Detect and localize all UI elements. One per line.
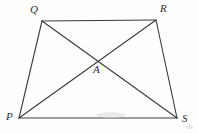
vertex-label-A: A [93,64,100,75]
vertex-label-S: S [182,113,188,124]
vertex-label-Q: Q [30,4,38,15]
geometry-figure: P Q R S A [0,0,198,133]
vertex-label-R: R [160,3,167,14]
paper-smudge [96,112,126,118]
side-RS-line [156,20,177,118]
vertex-label-P: P [6,111,13,122]
diagonal-PR-line [19,20,156,118]
side-QR-line [42,20,156,21]
diagonal-QS-line [42,21,177,118]
paper-speck [186,125,193,129]
